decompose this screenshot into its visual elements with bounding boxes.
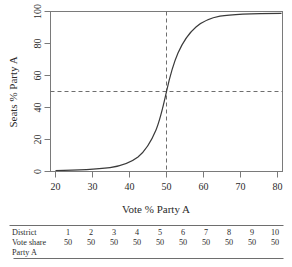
table-cell-vote-share: 50	[64, 238, 72, 247]
table-cell-vote-share: 50	[87, 238, 95, 247]
table-cell-district: 6	[181, 228, 185, 237]
x-tick-label-40: 40	[125, 181, 135, 192]
x-tick-label-80: 80	[273, 181, 283, 192]
y-tick-label-40: 40	[32, 103, 43, 113]
table-cell-district: 2	[89, 228, 93, 237]
x-axis-title: Vote % Party A	[122, 203, 190, 215]
district-vote-share-table: District Vote share Party A 1 2 3 4 5 6 …	[10, 226, 284, 259]
table-cell-district: 1	[66, 228, 70, 237]
table-row-label-district: District	[12, 228, 37, 237]
y-tick-label-20: 20	[32, 135, 43, 145]
y-axis-ticks	[45, 12, 51, 172]
table-cell-district: 8	[227, 228, 231, 237]
seats-votes-figure: 20 30 40 50 60 70 80 0 20 40 60 80 100 V…	[0, 0, 292, 267]
table-cell-vote-share: 50	[179, 238, 187, 247]
table-cell-vote-share: 50	[156, 238, 164, 247]
x-tick-label-50: 50	[162, 181, 172, 192]
table-cell-vote-share: 50	[248, 238, 256, 247]
y-tick-label-100: 100	[32, 4, 43, 19]
y-tick-labels: 0 20 40 60 80 100	[32, 4, 43, 174]
table-cell-district: 9	[250, 228, 254, 237]
table-row-vote-shares: 50 50 50 50 50 50 50 50 50 50	[64, 238, 279, 247]
x-tick-label-30: 30	[88, 181, 98, 192]
table-cell-vote-share: 50	[202, 238, 210, 247]
y-axis-title: Seats % Party A	[7, 56, 19, 127]
y-tick-label-80: 80	[32, 39, 43, 49]
table-row-label-party-a: Party A	[12, 248, 37, 257]
table-cell-district: 5	[158, 228, 162, 237]
x-axis-ticks	[56, 172, 278, 178]
table-cell-district: 4	[135, 228, 139, 237]
table-cell-vote-share: 50	[133, 238, 141, 247]
x-tick-label-70: 70	[236, 181, 246, 192]
table-cell-district: 7	[204, 228, 208, 237]
table-cell-vote-share: 50	[271, 238, 279, 247]
table-cell-district: 3	[112, 228, 116, 237]
x-tick-label-20: 20	[51, 181, 61, 192]
table-cell-vote-share: 50	[110, 238, 118, 247]
table-cell-vote-share: 50	[225, 238, 233, 247]
table-cell-district: 10	[271, 228, 279, 237]
y-tick-label-0: 0	[32, 169, 43, 174]
table-row-districts: 1 2 3 4 5 6 7 8 9 10	[66, 228, 279, 237]
x-tick-label-60: 60	[199, 181, 209, 192]
x-tick-labels: 20 30 40 50 60 70 80	[51, 181, 283, 192]
table-row-label-vote-share: Vote share	[12, 238, 47, 247]
y-tick-label-60: 60	[32, 71, 43, 81]
